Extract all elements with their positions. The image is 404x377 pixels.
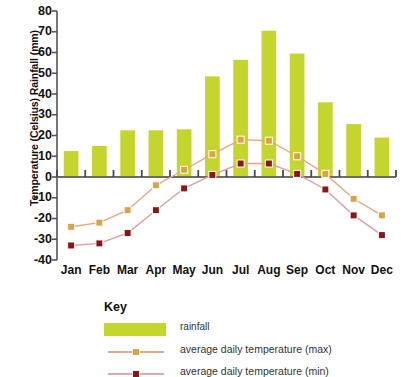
temp-min-marker bbox=[322, 186, 329, 193]
x-axis-tick-label: Dec bbox=[362, 263, 402, 277]
chart-legend: Key rainfall average daily temperature (… bbox=[0, 292, 404, 377]
temp-min-marker bbox=[265, 160, 272, 167]
rainfall-bar bbox=[375, 138, 390, 177]
climate-chart: Temperature (Celsius) Rainfall (mm) 8070… bbox=[0, 0, 404, 377]
rainfall-bar bbox=[92, 146, 107, 177]
legend-label-temp-min: average daily temperature (min) bbox=[180, 365, 329, 377]
temp-min-marker bbox=[350, 212, 357, 219]
temp-max-marker bbox=[96, 219, 103, 226]
temp-max-marker bbox=[350, 195, 357, 202]
chart-canvas bbox=[0, 0, 404, 290]
temp-max-marker bbox=[265, 137, 272, 144]
temp-max-marker bbox=[378, 212, 385, 219]
rainfall-bar bbox=[120, 130, 135, 177]
temp-min-marker bbox=[237, 160, 244, 167]
rainfall-bar bbox=[262, 31, 277, 177]
rainfall-bar bbox=[318, 102, 333, 177]
temp-max-marker bbox=[68, 223, 75, 230]
temp-max-line bbox=[71, 140, 382, 227]
temp-min-marker bbox=[124, 230, 131, 237]
rainfall-swatch-icon bbox=[104, 323, 166, 336]
temp-max-marker bbox=[152, 182, 159, 189]
rainfall-bar bbox=[346, 124, 361, 177]
temp-min-marker bbox=[294, 170, 301, 177]
temp-min-marker bbox=[96, 240, 103, 247]
temp-max-marker bbox=[322, 170, 329, 177]
legend-title: Key bbox=[104, 300, 127, 314]
plot-area: Temperature (Celsius) Rainfall (mm) 8070… bbox=[0, 0, 404, 290]
temp-max-marker bbox=[209, 151, 216, 158]
rainfall-bar bbox=[205, 76, 220, 177]
rainfall-bar bbox=[64, 151, 79, 177]
temp-max-marker bbox=[124, 207, 131, 214]
temp-min-marker bbox=[181, 185, 188, 192]
temp-min-marker bbox=[68, 242, 75, 249]
legend-label-temp-max: average daily temperature (max) bbox=[180, 343, 332, 355]
legend-label-rainfall: rainfall bbox=[180, 321, 209, 332]
temp-max-marker bbox=[237, 136, 244, 143]
temp-min-marker bbox=[209, 171, 216, 178]
temp-min-marker bbox=[378, 232, 385, 239]
temp-max-marker bbox=[181, 166, 188, 173]
rainfall-bar bbox=[233, 60, 248, 177]
temp-min-marker-icon bbox=[132, 370, 140, 377]
rainfall-bar bbox=[149, 130, 164, 177]
temp-max-marker-icon bbox=[132, 348, 140, 356]
temp-max-marker bbox=[294, 153, 301, 160]
temp-min-marker bbox=[152, 207, 159, 214]
